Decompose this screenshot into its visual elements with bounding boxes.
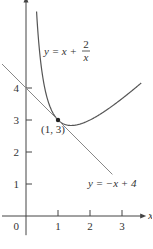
curve-label: y = x +: [43, 45, 77, 57]
chart: xy12312340(1, 3)y = x + 2xy = −x + 4: [0, 0, 152, 249]
curve-label-denominator: x: [83, 51, 89, 63]
y-tick-label: 4: [14, 82, 20, 94]
marks: [2, 12, 141, 175]
y-tick-label: 1: [14, 178, 20, 190]
tangent-point: [56, 118, 60, 122]
x-axis-arrow: [140, 214, 146, 219]
curve-line: [37, 12, 142, 126]
y-axis-arrow: [24, 0, 29, 3]
labels: xy12312340(1, 3)y = x + 2xy = −x + 4: [14, 0, 153, 232]
x-tick-label: 2: [87, 220, 93, 232]
y-tick-label: 2: [14, 146, 20, 158]
point-label: (1, 3): [41, 123, 65, 136]
axes: [2, 0, 146, 235]
tangent-label: y = −x + 4: [87, 177, 137, 189]
x-tick-label: 1: [55, 220, 61, 232]
x-tick-label: 3: [119, 220, 125, 232]
y-tick-label: 3: [14, 114, 20, 126]
curve-label-numerator: 2: [83, 38, 89, 50]
origin-label: 0: [14, 220, 20, 232]
x-axis-label: x: [147, 209, 152, 221]
